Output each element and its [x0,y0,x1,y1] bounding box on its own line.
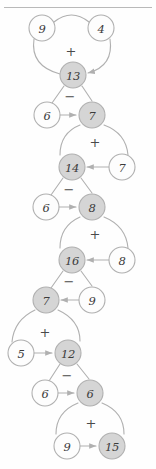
node-12-result[interactable]: 12 [55,340,81,366]
operator-symbol-3: + [90,135,101,150]
operator-symbol-4: − [64,182,75,197]
node-6-c[interactable]: 6 [32,380,58,406]
node-value: 6 [86,387,93,401]
edge-result4-to-result5-left [60,217,80,248]
node-6-b[interactable]: 6 [33,194,59,220]
edge-result6-to-left-7 [12,310,35,342]
node-8-b[interactable]: 8 [109,247,135,273]
edge-result1-to-right-2 [82,86,92,101]
edge-result3-to-right-4 [81,178,92,193]
node-13-result[interactable]: 13 [60,62,86,88]
node-16-result[interactable]: 16 [59,247,85,273]
node-value: 9 [88,294,95,308]
node-value: 6 [42,201,49,215]
edge-result8-to-result9 [102,403,124,434]
node-value: 8 [118,254,125,268]
operator-symbol-8: − [62,368,73,383]
node-7-result-b[interactable]: 7 [33,287,59,313]
edge-result3-to-left-4 [51,178,63,195]
diagram-page: 9 4 13 6 7 14 [0,0,156,469]
node-value: 13 [66,69,80,83]
node-value: 12 [61,347,75,361]
arithmetic-chain-diagram: 9 4 13 6 7 14 [0,0,156,469]
node-9-a[interactable]: 9 [29,15,55,41]
edge-result5-to-left-6 [51,271,63,288]
node-value: 16 [65,254,79,268]
edge-result5-to-right-6 [81,271,92,286]
node-value: 14 [65,161,79,175]
node-6-result[interactable]: 6 [77,380,103,406]
edge-left-to-result-1 [34,39,60,74]
node-15-result[interactable]: 15 [99,433,125,459]
edge-result7-to-left-8 [49,364,60,381]
node-layer: 9 4 13 6 7 14 [8,15,135,459]
operator-symbol-7: + [40,325,51,340]
node-value: 9 [38,22,45,36]
node-6-a[interactable]: 6 [34,102,60,128]
edge-right-to-result-1 [88,39,111,73]
node-value: 9 [63,440,70,454]
node-value: 15 [105,440,119,454]
node-value: 6 [43,109,50,123]
operator-symbol-5: + [90,227,101,242]
node-7-b[interactable]: 7 [109,154,135,180]
node-value: 7 [118,161,126,175]
node-value: 4 [96,22,104,36]
operator-symbol-6: − [64,274,75,289]
node-7-result-a[interactable]: 7 [79,102,105,128]
edge-result4-to-right-5 [104,217,128,248]
node-8-result[interactable]: 8 [79,194,105,220]
edge-result1-to-left-2 [52,86,64,103]
edge-result2-to-result3-left [60,125,80,155]
node-9-b[interactable]: 9 [79,287,105,313]
edge-result6-to-result7 [58,310,80,341]
edge-operand-link-1 [54,15,89,22]
operator-symbol-1: + [66,44,77,59]
node-4[interactable]: 4 [88,15,114,41]
operator-symbol-2: − [65,89,76,104]
node-14-result[interactable]: 14 [59,154,85,180]
edge-result2-to-right-3 [104,125,128,155]
node-value: 7 [42,294,50,308]
node-value: 5 [17,347,24,361]
edge-result7-to-right-8 [77,364,89,379]
node-value: 8 [88,201,95,215]
node-value: 6 [41,387,48,401]
node-5[interactable]: 5 [8,340,34,366]
operator-symbol-9: + [86,416,97,431]
node-value: 7 [88,109,96,123]
node-9-c[interactable]: 9 [54,433,80,459]
edge-result8-to-left-9 [56,403,78,434]
